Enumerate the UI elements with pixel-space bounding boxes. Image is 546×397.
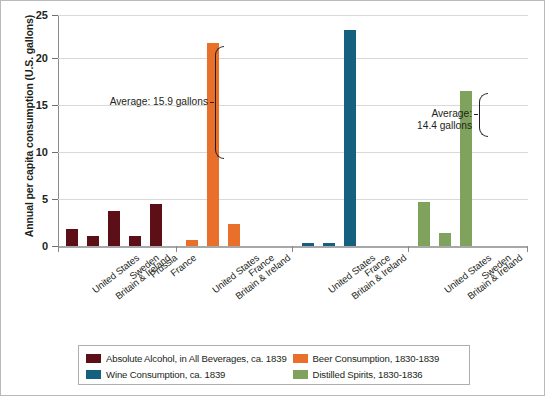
- x-axis-labels: United StatesBritain & IrelandSwedenPrus…: [0, 0, 546, 397]
- legend-swatch-beer: [293, 354, 308, 363]
- legend-item-absolute-alcohol: Absolute Alcohol, in All Beverages, ca. …: [86, 351, 287, 365]
- legend-label-absolute-alcohol: Absolute Alcohol, in All Beverages, ca. …: [106, 353, 287, 364]
- spirits-average-label-line2: 14.4 gallons: [400, 120, 472, 132]
- chart-container: Annual per capita consumption (U.S. gall…: [0, 0, 546, 397]
- beer-average-bracket: [215, 46, 224, 159]
- spirits-average-label-line1: Average:: [406, 108, 472, 120]
- spirits-average-bracket-tick: [474, 114, 478, 115]
- beer-average-bracket-tick: [210, 102, 214, 103]
- legend-item-distilled-spirits: Distilled Spirits, 1830-1836: [293, 367, 462, 381]
- beer-average-label: Average: 15.9 gallons: [62, 96, 208, 108]
- spirits-average-bracket: [479, 93, 488, 137]
- legend-label-wine: Wine Consumption, ca. 1839: [106, 369, 225, 380]
- legend-swatch-distilled-spirits: [293, 370, 308, 379]
- legend-label-beer: Beer Consumption, 1830-1839: [313, 353, 440, 364]
- legend-swatch-wine: [86, 370, 101, 379]
- legend-item-wine: Wine Consumption, ca. 1839: [86, 367, 287, 381]
- legend-swatch-absolute-alcohol: [86, 354, 101, 363]
- legend-label-distilled-spirits: Distilled Spirits, 1830-1836: [313, 369, 423, 380]
- legend-item-beer: Beer Consumption, 1830-1839: [293, 351, 462, 365]
- chart-legend: Absolute Alcohol, in All Beverages, ca. …: [78, 345, 470, 385]
